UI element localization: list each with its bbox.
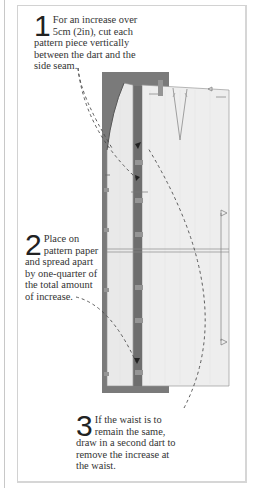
step-3-callout: 3 If the waist is to remain the same, dr… xyxy=(76,414,184,472)
step-1-callout: 1 For an increase over 5cm (2in), cut ea… xyxy=(34,14,140,72)
step-3-number: 3 xyxy=(76,415,93,437)
pattern-piece-right xyxy=(142,85,229,386)
step-1-number: 1 xyxy=(34,15,51,37)
step-2-number: 2 xyxy=(25,234,42,256)
step-2-callout: 2 Place on pattern paper and spread apar… xyxy=(25,233,99,303)
